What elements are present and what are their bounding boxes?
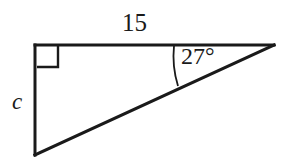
- right-angle-marker-icon: [37, 46, 58, 67]
- geometry-figure: 15 c 27°: [0, 0, 286, 166]
- angle-arc-icon: [173, 46, 178, 86]
- angle-measure-label: 27°: [181, 44, 215, 68]
- side-length-label-top: 15: [122, 10, 147, 35]
- triangle-hypotenuse: [35, 45, 274, 155]
- side-length-label-left: c: [12, 90, 22, 113]
